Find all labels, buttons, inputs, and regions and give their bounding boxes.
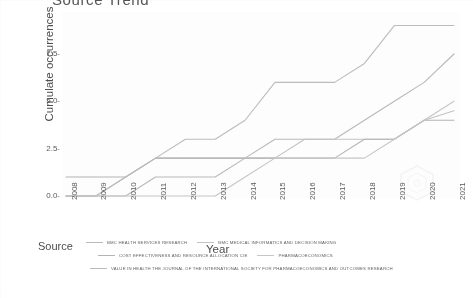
x-tick-label: 2017 xyxy=(338,182,347,200)
y-axis-label: Cumulate occurrences xyxy=(43,0,55,159)
legend-row: COST EFFECTIVENESS AND RESOURCE ALLOCATI… xyxy=(86,249,473,262)
x-tick-label: 2010 xyxy=(129,182,138,200)
x-tick-label: 2009 xyxy=(99,182,108,200)
x-axis: 2008200920102011201220132014201520162017… xyxy=(62,200,460,240)
legend-item[interactable]: PHARMACOECONOMICS xyxy=(257,253,332,258)
y-tick-label: 7.5- xyxy=(46,49,60,58)
legend-item-label: BMC HEALTH SERVICES RESEARCH xyxy=(107,240,187,245)
y-tick-label: 2.5- xyxy=(46,144,60,153)
x-tick-label: 2014 xyxy=(249,182,258,200)
x-tick-label: 2012 xyxy=(189,182,198,200)
legend-item-label: BMC MEDICAL INFORMATICS AND DECISION MAK… xyxy=(218,240,336,245)
x-tick-label: 2019 xyxy=(398,182,407,200)
legend-title: Source xyxy=(38,240,73,252)
legend-item-label: PHARMACOECONOMICS xyxy=(278,253,332,258)
y-tick-label: 5.0- xyxy=(46,96,60,105)
legend-line-swatch xyxy=(257,255,274,256)
legend-line-swatch xyxy=(86,242,103,243)
legend-line-swatch xyxy=(197,242,214,243)
x-tick-label: 2018 xyxy=(368,182,377,200)
legend-row: VALUE IN HEALTH THE JOURNAL OF THE INTER… xyxy=(86,262,473,275)
legend-rows: BMC HEALTH SERVICES RESEARCHBMC MEDICAL … xyxy=(86,236,473,275)
legend-item[interactable]: VALUE IN HEALTH THE JOURNAL OF THE INTER… xyxy=(90,266,393,271)
legend-item-label: VALUE IN HEALTH THE JOURNAL OF THE INTER… xyxy=(111,266,393,271)
chart-title: Source Trend xyxy=(52,0,149,8)
legend-row: BMC HEALTH SERVICES RESEARCHBMC MEDICAL … xyxy=(86,236,473,249)
legend-item[interactable]: COST EFFECTIVENESS AND RESOURCE ALLOCATI… xyxy=(98,253,247,258)
x-tick-label: 2013 xyxy=(219,182,228,200)
chart-screenshot: Source Trend Cumulate occurrences 0.0-2.… xyxy=(0,0,473,298)
legend-item[interactable]: BMC MEDICAL INFORMATICS AND DECISION MAK… xyxy=(197,240,336,245)
y-tick-label: 0.0- xyxy=(46,191,60,200)
x-tick-label: 2020 xyxy=(428,182,437,200)
x-tick-label: 2021 xyxy=(458,182,467,200)
y-axis: Cumulate occurrences 0.0-2.5-5.0-7.5- xyxy=(26,0,60,198)
x-tick-label: 2016 xyxy=(308,182,317,200)
legend-item-label: COST EFFECTIVENESS AND RESOURCE ALLOCATI… xyxy=(119,253,247,258)
legend-line-swatch xyxy=(98,255,115,256)
x-tick-label: 2015 xyxy=(278,182,287,200)
legend-line-swatch xyxy=(90,268,107,269)
legend-item[interactable]: BMC HEALTH SERVICES RESEARCH xyxy=(86,240,187,245)
x-tick-label: 2011 xyxy=(159,183,168,200)
x-tick-label: 2008 xyxy=(70,182,79,200)
